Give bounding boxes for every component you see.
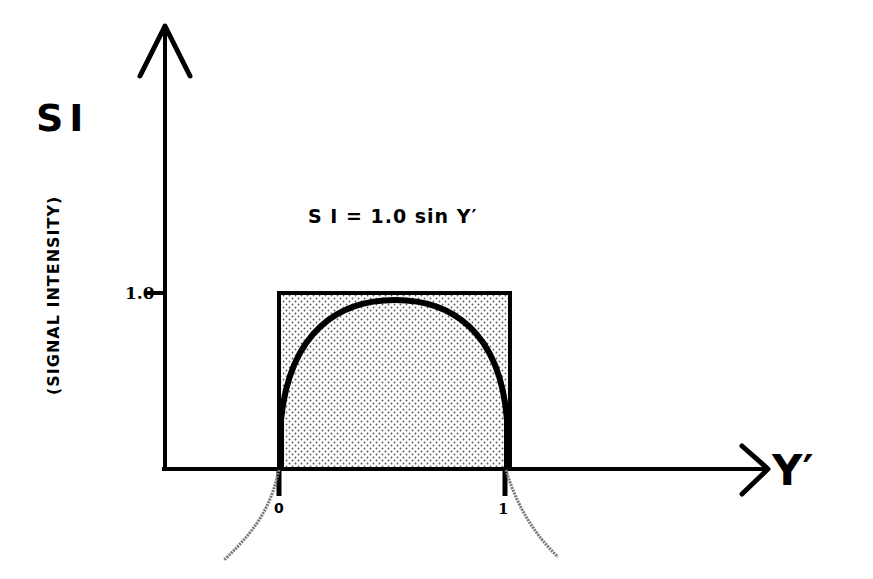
x-axis-title: Y′ bbox=[772, 446, 814, 495]
left-tail bbox=[224, 470, 279, 560]
formula-label: S I = 1.0 sin Y′ bbox=[308, 205, 478, 227]
y-tick-label: 1.0 bbox=[125, 283, 155, 303]
y-axis-subtitle: (SIGNAL INTENSITY) bbox=[44, 196, 63, 395]
shaded-region bbox=[279, 293, 510, 469]
y-axis-title: SI bbox=[36, 96, 90, 140]
right-tail bbox=[506, 470, 558, 557]
x-tick-label-0: 0 bbox=[274, 500, 284, 516]
x-tick-label-1: 1 bbox=[498, 500, 508, 518]
